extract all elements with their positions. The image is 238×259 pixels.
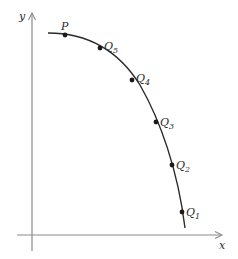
point-q3-label: Q3 [160,116,174,131]
point-q2-label: Q2 [176,159,190,174]
point-q5-dot [98,46,103,51]
point-q1-dot [180,210,185,215]
point-q3-dot [154,120,159,125]
point-q5-label: Q5 [104,40,118,55]
point-p-dot [63,33,68,38]
point-q4-dot [130,78,135,83]
y-axis-label: y [18,10,26,23]
point-q1-label: Q1 [186,206,200,221]
curve [48,33,185,228]
secant-diagram: y x PQ5Q4Q3Q2Q1 [0,0,238,259]
point-q4-label: Q4 [136,72,150,87]
point-p-label: P [60,20,69,33]
x-axis-label: x [219,239,226,252]
point-q2-dot [170,163,175,168]
